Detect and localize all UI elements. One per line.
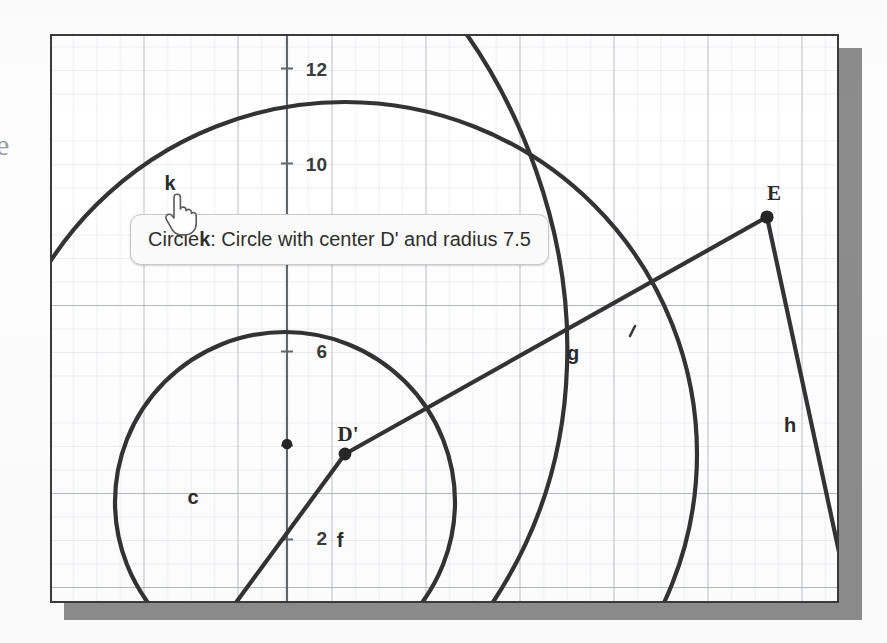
- label-c[interactable]: c: [187, 486, 198, 509]
- tooltip-object-name: k: [199, 228, 210, 251]
- tooltip-prefix: Circle: [148, 228, 199, 251]
- geometry-applet-window[interactable]: 12 10 6 2 k c f g h D' E Circle k: Circl…: [50, 34, 839, 603]
- circle-k[interactable]: [52, 102, 697, 601]
- geometry-objects-layer[interactable]: [52, 36, 837, 601]
- scanned-page: e: [0, 0, 887, 643]
- y-tick-label-6: 6: [316, 341, 327, 363]
- label-f[interactable]: f: [337, 529, 344, 552]
- point-unlabeled-top-c[interactable]: [282, 439, 292, 449]
- point-e[interactable]: [760, 210, 773, 223]
- label-g[interactable]: g: [567, 342, 579, 365]
- tooltip-suffix: : Circle with center D' and radius 7.5: [210, 228, 531, 251]
- graphics-view[interactable]: 12 10 6 2 k c f g h D' E Circle k: Circl…: [52, 36, 837, 601]
- circle-c[interactable]: [115, 332, 455, 601]
- segment-h[interactable]: [767, 217, 837, 566]
- margin-glyph: e: [0, 128, 7, 162]
- scan-artifact-mark: [630, 326, 635, 336]
- circle-large-right[interactable]: [52, 102, 697, 601]
- object-tooltip: Circle k: Circle with center D' and radi…: [130, 214, 549, 265]
- label-e[interactable]: E: [767, 181, 781, 206]
- point-d-prime[interactable]: [339, 448, 352, 461]
- label-h[interactable]: h: [784, 414, 796, 437]
- y-tick-label-2: 2: [316, 528, 327, 550]
- label-d-prime[interactable]: D': [338, 422, 359, 447]
- label-k[interactable]: k: [164, 172, 175, 195]
- y-tick-label-12: 12: [306, 59, 327, 81]
- segment-f[interactable]: [232, 454, 345, 601]
- y-tick-label-10: 10: [306, 154, 327, 176]
